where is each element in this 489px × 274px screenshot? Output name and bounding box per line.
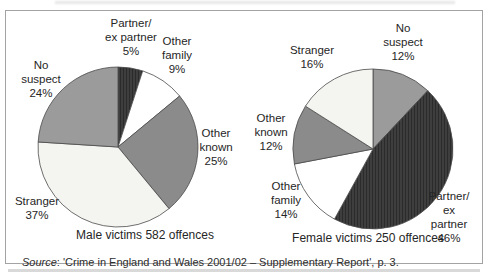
- source-label: Source: [22, 256, 57, 268]
- label-male-other-known: Other known 25%: [199, 126, 232, 168]
- label-male-no-suspect: No suspect 24%: [21, 58, 61, 100]
- female-chart-caption: Female victims 250 offences: [292, 231, 444, 245]
- figure-page: Partner/ ex partner 5% Other family 9% N…: [0, 0, 489, 274]
- male-chart-caption: Male victims 582 offences: [76, 228, 214, 242]
- label-female-other-known: Other known 12%: [254, 111, 287, 153]
- scan-artifact-top: [55, 1, 455, 4]
- label-male-stranger: Stranger 37%: [15, 194, 59, 222]
- figure-panel: Partner/ ex partner 5% Other family 9% N…: [5, 10, 483, 264]
- scan-artifact-bottom: [8, 269, 480, 272]
- label-male-other-family: Other family 9%: [162, 34, 192, 76]
- label-male-partner-ex-partner: Partner/ ex partner 5%: [105, 16, 157, 58]
- source-text: : 'Crime in England and Wales 2001/02 – …: [57, 256, 399, 268]
- label-female-no-suspect: No suspect 12%: [383, 21, 423, 63]
- label-female-other-family: Other family 14%: [271, 179, 301, 221]
- source-citation: Source: 'Crime in England and Wales 2001…: [22, 256, 399, 268]
- label-female-stranger: Stranger 16%: [290, 43, 334, 71]
